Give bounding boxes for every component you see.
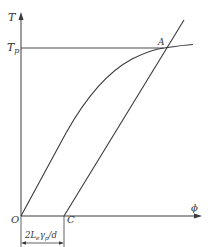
origin-label: O [11,214,19,225]
dimension-arrow-right-icon [59,241,64,245]
x-axis-label: ϕ [191,202,198,213]
dim-prefix: 2L [24,230,36,240]
response-curve [21,45,193,217]
dimension-arrow-left-icon [21,241,26,245]
dim-suffix: /d [48,230,58,240]
offset-line [64,20,184,216]
point-c-label: C [67,214,75,225]
tp-label-sub: p [14,46,19,55]
diagram-canvas: T Tp A O C ϕ 2Leγp/d [0,0,208,247]
y-axis-arrow-icon [19,12,24,20]
x-axis-arrow-icon [194,214,202,219]
tp-label: Tp [7,41,19,55]
y-axis-label: T [8,11,17,24]
dimension-label: 2Leγp/d [24,230,57,242]
point-a-label: A [157,37,165,47]
